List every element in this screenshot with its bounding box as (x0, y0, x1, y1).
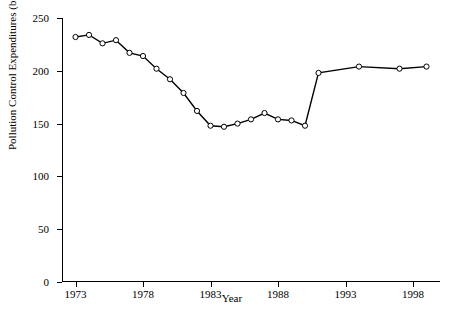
pollution-control-expenditures-chart: Pollution Control Expenditures (billion … (0, 0, 464, 332)
y-tick-label: 200 (9, 65, 49, 77)
data-point (181, 90, 186, 95)
data-point (100, 41, 105, 46)
x-tick-label: 1983 (200, 288, 222, 300)
x-tick-label: 1998 (402, 288, 424, 300)
x-tick-label: 1978 (132, 288, 154, 300)
data-point (235, 121, 240, 126)
x-tick (278, 282, 279, 287)
data-point (140, 53, 145, 58)
data-point (262, 110, 267, 115)
data-point (113, 38, 118, 43)
data-point (221, 124, 226, 129)
x-tick-label: 1988 (267, 288, 289, 300)
data-point (248, 117, 253, 122)
data-point (73, 34, 78, 39)
plot-area: 050100150200250 197319781983198819931998 (62, 18, 440, 282)
x-tick (143, 282, 144, 287)
x-tick-label: 1993 (335, 288, 357, 300)
x-tick-label: 1973 (65, 288, 87, 300)
x-tick (346, 282, 347, 287)
x-tick (76, 282, 77, 287)
data-point (289, 118, 294, 123)
data-point (356, 64, 361, 69)
y-tick-label: 150 (9, 118, 49, 130)
x-tick (413, 282, 414, 287)
data-point (316, 70, 321, 75)
data-point (424, 64, 429, 69)
data-point (275, 117, 280, 122)
y-tick-label: 100 (9, 170, 49, 182)
y-tick-label: 250 (9, 12, 49, 24)
x-tick (211, 282, 212, 287)
series-layer (62, 18, 440, 282)
data-point (86, 32, 91, 37)
y-tick-label: 50 (9, 223, 49, 235)
data-point (397, 66, 402, 71)
data-point (194, 108, 199, 113)
data-point (167, 77, 172, 82)
data-point (154, 66, 159, 71)
data-point (127, 50, 132, 55)
data-point (302, 123, 307, 128)
y-tick-label: 0 (9, 276, 49, 288)
data-point (208, 123, 213, 128)
series-line (76, 35, 427, 127)
y-tick: 0 (57, 282, 62, 283)
series-markers (73, 32, 429, 129)
